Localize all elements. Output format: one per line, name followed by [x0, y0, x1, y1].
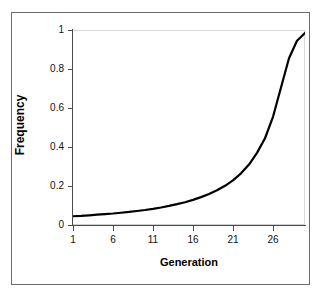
- x-tick-mark: [153, 226, 154, 231]
- y-axis-title: Frequency: [13, 65, 27, 185]
- x-tick-mark: [113, 226, 114, 231]
- logistic-growth-curve-svg: [73, 31, 305, 226]
- x-tick-label: 26: [258, 234, 288, 245]
- y-tick-mark: [68, 69, 73, 70]
- y-tick-label: 1: [6, 25, 64, 35]
- y-tick-label: 0: [6, 220, 64, 230]
- y-tick-mark: [68, 30, 73, 31]
- x-tick-label: 1: [58, 234, 88, 245]
- x-tick-label: 16: [178, 234, 208, 245]
- y-tick-mark: [68, 147, 73, 148]
- x-tick-label: 6: [98, 234, 128, 245]
- x-axis-line: [72, 225, 306, 226]
- x-tick-mark: [273, 226, 274, 231]
- plot-area: [73, 30, 305, 225]
- x-tick-mark: [73, 226, 74, 231]
- chart-figure: 00.20.40.60.81 1611162126 Frequency Gene…: [0, 0, 332, 298]
- x-tick-label: 21: [218, 234, 248, 245]
- x-axis-title: Generation: [73, 256, 305, 268]
- y-axis-line: [72, 29, 73, 226]
- x-tick-label: 11: [138, 234, 168, 245]
- y-tick-mark: [68, 186, 73, 187]
- y-tick-mark: [68, 108, 73, 109]
- frequency-line-series: [73, 33, 305, 216]
- x-tick-mark: [193, 226, 194, 231]
- x-tick-mark: [233, 226, 234, 231]
